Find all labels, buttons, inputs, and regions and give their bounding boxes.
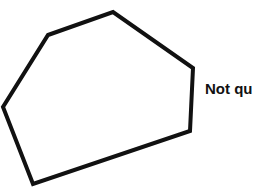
shape-caption: Not qu [205,80,252,98]
irregular-hexagon [3,12,193,184]
